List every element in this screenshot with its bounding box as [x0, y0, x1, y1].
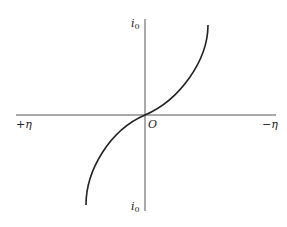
y-bottom-label: i0: [131, 201, 140, 214]
diagram-canvas: [0, 0, 287, 227]
x-left-label: +η: [16, 119, 32, 130]
origin-label: O: [148, 119, 157, 130]
y-top-label: i0: [131, 18, 140, 31]
x-right-label: −η: [262, 119, 278, 130]
